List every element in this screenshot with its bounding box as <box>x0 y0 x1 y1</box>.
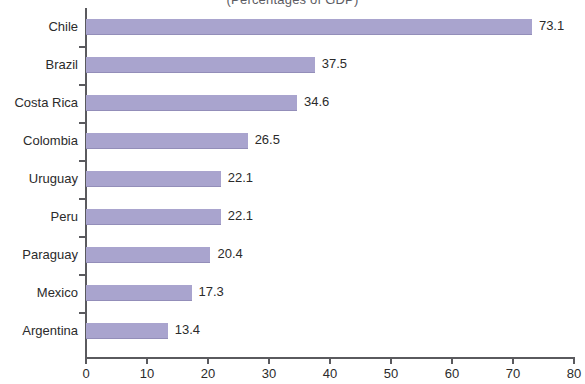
bar-row: 22.1 <box>86 198 574 236</box>
bar-value-label: 13.4 <box>175 322 200 337</box>
x-axis-tick-label: 80 <box>554 366 585 381</box>
bar-value-label: 34.6 <box>304 94 329 109</box>
x-axis-tick <box>390 357 392 364</box>
y-axis-tick-label: Argentina <box>0 312 78 350</box>
bar-row: 26.5 <box>86 122 574 160</box>
bar-row: 20.4 <box>86 236 574 274</box>
x-axis-tick-label: 30 <box>249 366 289 381</box>
x-axis-tick <box>85 357 87 364</box>
bar-chart: (Percentages of GDP) ChileBrazilCosta Ri… <box>0 0 585 384</box>
plot-area: 73.137.534.626.522.122.120.417.313.4 <box>86 8 574 358</box>
bar <box>86 19 532 35</box>
y-axis-tick-label: Mexico <box>0 274 78 312</box>
y-axis-tick <box>79 236 86 238</box>
y-axis-tick <box>79 46 86 48</box>
y-axis-tick-label: Paraguay <box>0 236 78 274</box>
x-axis-tick-label: 40 <box>310 366 350 381</box>
bar-value-label: 17.3 <box>199 284 224 299</box>
y-axis-tick-label: Peru <box>0 198 78 236</box>
bar <box>86 171 221 187</box>
x-axis-tick <box>146 357 148 364</box>
bar <box>86 323 168 339</box>
y-axis-tick-label: Colombia <box>0 122 78 160</box>
bar-value-label: 37.5 <box>322 56 347 71</box>
bar <box>86 133 248 149</box>
bar-row: 73.1 <box>86 8 574 46</box>
y-axis-tick <box>79 198 86 200</box>
y-axis-tick <box>79 312 86 314</box>
y-axis-tick-label: Chile <box>0 8 78 46</box>
bar-row: 17.3 <box>86 274 574 312</box>
bar-value-label: 22.1 <box>228 208 253 223</box>
x-axis-tick-label: 20 <box>188 366 228 381</box>
y-axis-tick <box>79 160 86 162</box>
bar <box>86 209 221 225</box>
x-axis-tick-label: 70 <box>493 366 533 381</box>
bar <box>86 57 315 73</box>
x-axis-tick-label: 0 <box>66 366 106 381</box>
y-axis-tick <box>79 274 86 276</box>
y-axis-tick-label: Uruguay <box>0 160 78 198</box>
x-axis-tick-label: 50 <box>371 366 411 381</box>
bar-value-label: 26.5 <box>255 132 280 147</box>
bar-row: 37.5 <box>86 46 574 84</box>
bar <box>86 285 192 301</box>
x-axis-tick-label: 10 <box>127 366 167 381</box>
y-axis-tick <box>79 122 86 124</box>
x-axis-tick <box>329 357 331 364</box>
x-axis-tick <box>512 357 514 364</box>
x-axis-tick <box>268 357 270 364</box>
bar-value-label: 73.1 <box>539 18 564 33</box>
x-axis-tick <box>451 357 453 364</box>
bar-row: 13.4 <box>86 312 574 350</box>
bar-value-label: 22.1 <box>228 170 253 185</box>
y-axis-tick-label: Brazil <box>0 46 78 84</box>
x-axis-tick <box>207 357 209 364</box>
bar-row: 34.6 <box>86 84 574 122</box>
x-axis-tick <box>573 357 575 364</box>
y-axis-tick <box>79 84 86 86</box>
bar <box>86 95 297 111</box>
chart-subtitle: (Percentages of GDP) <box>0 0 585 7</box>
x-axis-tick-label: 60 <box>432 366 472 381</box>
bar-row: 22.1 <box>86 160 574 198</box>
bar <box>86 247 210 263</box>
bar-value-label: 20.4 <box>217 246 242 261</box>
y-axis-category-labels: ChileBrazilCosta RicaColombiaUruguayPeru… <box>0 8 78 358</box>
y-axis-tick-label: Costa Rica <box>0 84 78 122</box>
